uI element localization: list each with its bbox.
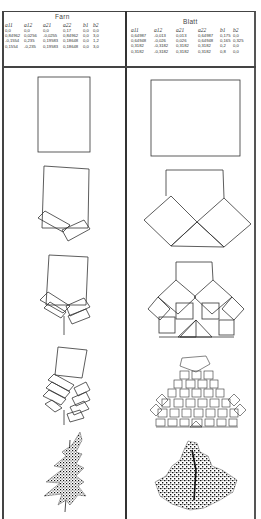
farn-stage-1 bbox=[38, 166, 90, 241]
ifs-illustrations bbox=[0, 0, 261, 519]
farn-stage-0 bbox=[38, 77, 90, 152]
farn-stage-2 bbox=[40, 255, 90, 335]
fern-attractor bbox=[44, 432, 86, 512]
leaf-attractor bbox=[155, 441, 237, 510]
blatt-stage-3 bbox=[150, 356, 246, 427]
blatt-stage-1 bbox=[144, 170, 251, 247]
blatt-stage-0 bbox=[151, 80, 240, 156]
farn-stage-3 bbox=[43, 347, 90, 425]
blatt-stage-2 bbox=[148, 262, 244, 337]
